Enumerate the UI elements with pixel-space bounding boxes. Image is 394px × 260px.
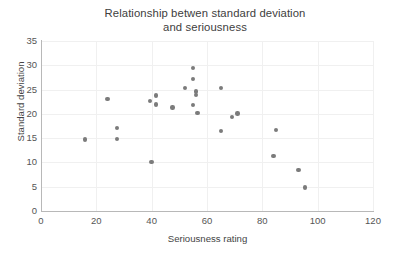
x-tick-label: 0 — [21, 216, 61, 226]
gridline-vertical — [152, 41, 153, 211]
plot-area — [41, 41, 373, 211]
data-point — [271, 154, 275, 158]
data-point — [115, 126, 119, 130]
data-point — [219, 129, 223, 133]
data-point — [296, 168, 300, 172]
gridline-vertical — [96, 41, 97, 211]
data-point — [154, 102, 158, 106]
y-axis-title: Standard deviation — [15, 42, 26, 162]
data-point — [154, 93, 158, 97]
x-axis-title: Seriousness rating — [41, 233, 374, 244]
data-point — [170, 105, 174, 109]
data-point — [303, 185, 307, 189]
data-point — [191, 66, 195, 70]
data-point — [230, 115, 234, 119]
x-tick-label: 20 — [76, 216, 116, 226]
data-point — [115, 137, 119, 141]
data-point — [195, 111, 199, 115]
x-axis-line — [41, 211, 374, 212]
data-point — [191, 103, 195, 107]
data-point — [105, 97, 109, 101]
scatter-chart: Relationship betwen standard deviation a… — [0, 0, 394, 260]
gridline-vertical — [207, 41, 208, 211]
gridline-vertical — [318, 41, 319, 211]
data-point — [149, 160, 153, 164]
data-point — [274, 128, 278, 132]
x-tick-label: 120 — [353, 216, 393, 226]
data-point — [194, 93, 198, 97]
data-point — [83, 137, 87, 141]
chart-title: Relationship betwen standard deviation a… — [40, 6, 370, 34]
data-point — [191, 77, 195, 81]
gridline-vertical — [373, 41, 374, 211]
data-point — [235, 111, 239, 115]
y-axis-line — [41, 40, 42, 212]
y-tick-label: 5 — [3, 182, 37, 192]
gridline-vertical — [262, 41, 263, 211]
x-tick-label: 40 — [132, 216, 172, 226]
x-tick-label: 60 — [187, 216, 227, 226]
x-tick-label: 80 — [242, 216, 282, 226]
y-tick-label: 0 — [3, 206, 37, 216]
x-axis-tick-labels: 020406080100120 — [0, 216, 394, 230]
x-tick-label: 100 — [298, 216, 338, 226]
